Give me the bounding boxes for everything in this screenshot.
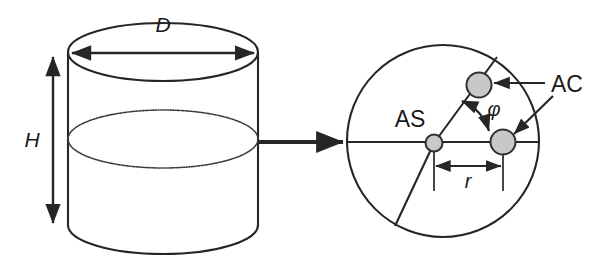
height-label: H <box>24 128 40 151</box>
ac-leader-arrow-right <box>514 96 553 134</box>
technical-diagram: D H φ r <box>0 0 603 264</box>
marker-ac-right <box>491 130 516 155</box>
marker-as <box>426 135 443 152</box>
r-label: r <box>465 170 473 192</box>
phi-angle-arc <box>462 101 489 131</box>
diameter-label: D <box>155 13 170 36</box>
radial-line-lower-left <box>395 143 434 226</box>
phi-label: φ <box>487 98 500 120</box>
marker-ac-upper <box>467 73 492 98</box>
cylinder-top-view: φ r AC AS <box>347 45 583 237</box>
cylinder-side-view: D H <box>24 13 258 254</box>
figure-root: D H φ r <box>0 0 603 264</box>
as-label: AS <box>395 106 426 132</box>
liquid-level-ellipse <box>68 110 258 168</box>
ac-label: AC <box>551 71 583 97</box>
bottom-ellipse-rim <box>68 225 258 254</box>
